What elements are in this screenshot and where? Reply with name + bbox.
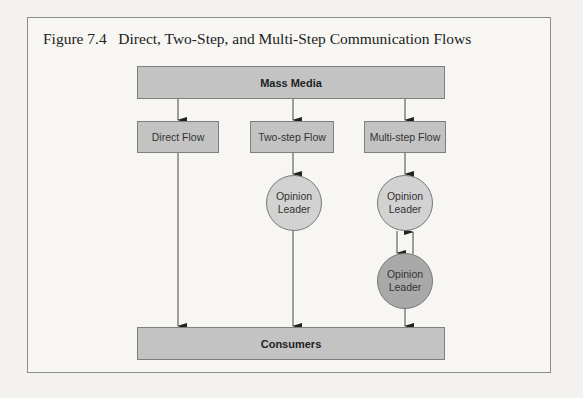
opinion-leader-two-step: Opinion Leader <box>266 175 322 231</box>
direct-flow-box: Direct Flow <box>137 121 219 153</box>
opinion-leader-label-line2: Leader <box>387 281 423 294</box>
opinion-leader-label-line1: Opinion <box>387 268 423 281</box>
consumers-box: Consumers <box>137 327 445 360</box>
consumers-label: Consumers <box>261 338 322 350</box>
opinion-leader-label-line1: Opinion <box>387 190 423 203</box>
opinion-leader-label-line1: Opinion <box>276 190 312 203</box>
mass-media-label: Mass Media <box>260 77 322 89</box>
opinion-leader-label-line2: Leader <box>387 203 423 216</box>
opinion-leader-label-line2: Leader <box>276 203 312 216</box>
two-step-flow-label: Two-step Flow <box>258 131 326 143</box>
multi-step-flow-box: Multi-step Flow <box>364 121 446 153</box>
opinion-leader-multi-step-first: Opinion Leader <box>377 175 433 231</box>
direct-flow-label: Direct Flow <box>152 131 205 143</box>
multi-step-flow-label: Multi-step Flow <box>370 131 441 143</box>
two-step-flow-box: Two-step Flow <box>250 121 334 153</box>
opinion-leader-multi-step-second: Opinion Leader <box>377 253 433 309</box>
mass-media-box: Mass Media <box>137 66 445 99</box>
